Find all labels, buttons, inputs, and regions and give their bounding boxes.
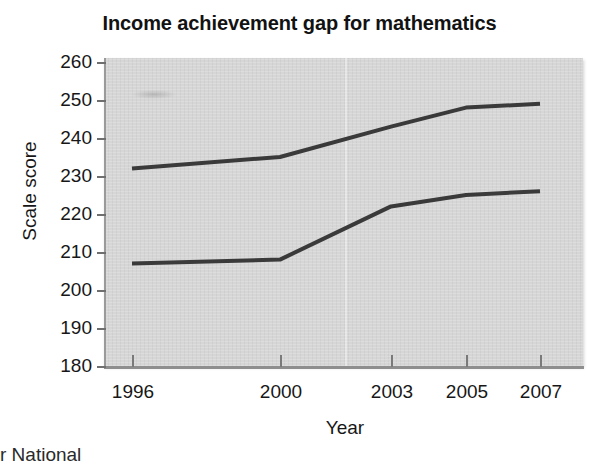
x-axis-tick-label: 2003 bbox=[352, 381, 432, 403]
x-axis-tick-label: 2005 bbox=[427, 381, 507, 403]
x-axis-tick bbox=[540, 355, 542, 367]
chart-figure: Income achievement gap for mathematics 2… bbox=[0, 0, 599, 467]
y-axis-tick bbox=[97, 328, 106, 330]
x-axis-tick-label: 2007 bbox=[501, 381, 581, 403]
y-axis-tick bbox=[97, 138, 106, 140]
y-axis-tick-label: 250 bbox=[36, 89, 92, 111]
x-axis-tick bbox=[280, 355, 282, 367]
y-axis-tick-label: 230 bbox=[36, 165, 92, 187]
x-axis-tick-label: 1996 bbox=[93, 381, 173, 403]
x-axis-tick bbox=[466, 355, 468, 367]
plot-paper-texture bbox=[104, 58, 583, 366]
y-axis-tick-label: 210 bbox=[36, 241, 92, 263]
y-axis-tick-label: 180 bbox=[36, 355, 92, 377]
x-axis-line bbox=[104, 366, 584, 369]
y-axis-tick bbox=[97, 214, 106, 216]
y-axis-tick bbox=[97, 290, 106, 292]
y-axis-line bbox=[104, 58, 106, 367]
y-axis-tick-label: 200 bbox=[36, 279, 92, 301]
y-axis-tick bbox=[97, 252, 106, 254]
y-axis-label: Scale score bbox=[19, 111, 41, 271]
plot-area bbox=[104, 58, 583, 366]
scan-fold-artifact bbox=[345, 58, 347, 366]
y-axis-tick-label: 220 bbox=[36, 203, 92, 225]
y-axis-tick-label: 190 bbox=[36, 317, 92, 339]
scan-smudge-artifact bbox=[132, 90, 176, 99]
y-axis-tick bbox=[97, 100, 106, 102]
y-axis-tick-label: 240 bbox=[36, 127, 92, 149]
x-axis-tick-label: 2000 bbox=[241, 381, 321, 403]
x-axis-tick bbox=[132, 355, 134, 367]
x-axis-tick bbox=[391, 355, 393, 367]
x-axis-label: Year bbox=[245, 417, 445, 439]
y-axis-tick bbox=[97, 176, 106, 178]
y-axis-tick-label: 260 bbox=[36, 51, 92, 73]
source-note: r National bbox=[0, 444, 300, 466]
chart-title: Income achievement gap for mathematics bbox=[0, 12, 599, 35]
y-axis-tick bbox=[97, 62, 106, 64]
y-axis-tick bbox=[97, 366, 106, 368]
